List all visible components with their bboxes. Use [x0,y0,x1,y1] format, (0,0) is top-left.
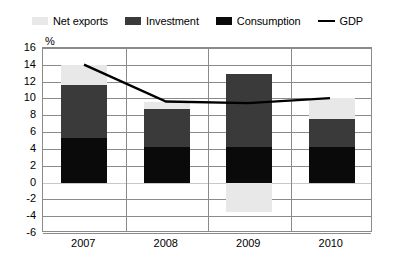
plot-area [42,47,372,232]
x-tick-label-2008: 2008 [154,238,178,249]
chart-legend: Net exportsInvestmentConsumptionGDP [0,12,395,30]
y-tick-label: 12 [24,75,36,86]
y-tick-label: 6 [30,126,36,137]
square-swatch-icon [125,17,141,25]
legend-label: Investment [146,16,199,27]
square-swatch-icon [32,17,48,25]
gdp-polyline [84,65,330,103]
y-tick-label: 0 [30,176,36,187]
y-tick-label: -2 [26,193,36,204]
x-tick-label-2010: 2010 [319,238,343,249]
square-swatch-icon [216,17,232,25]
y-tick-label: 4 [30,142,36,153]
legend-item-gdp[interactable]: GDP [318,16,364,27]
legend-item-investment[interactable]: Investment [125,16,199,27]
y-tick-label: -6 [26,227,36,238]
legend-label: Net exports [53,16,108,27]
x-tick-label-2009: 2009 [236,238,260,249]
x-tick-label-2007: 2007 [71,238,95,249]
legend-label: GDP [340,16,364,27]
y-tick-label: -4 [26,210,36,221]
y-tick-label: 10 [24,92,36,103]
legend-label: Consumption [237,16,301,27]
gridline [43,233,371,234]
y-axis-unit-label: % [45,36,55,47]
y-tick-label: 14 [24,58,36,69]
y-tick-label: 16 [24,42,36,53]
legend-item-net-exports[interactable]: Net exports [32,16,108,27]
x-axis: 2007200820092010 [42,238,372,254]
y-tick-label: 8 [30,109,36,120]
y-tick-label: 2 [30,159,36,170]
line-swatch-icon [318,20,335,22]
gdp-line-series [43,48,371,232]
legend-item-consumption[interactable]: Consumption [216,16,301,27]
y-axis: 1614121086420-2-4-6 [0,47,40,232]
